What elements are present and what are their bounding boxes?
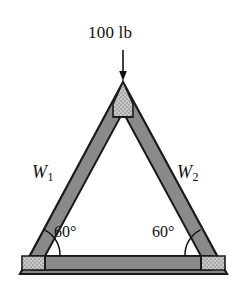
angle-label-right: 60° [152, 224, 174, 240]
base-tie-bar [31, 256, 212, 270]
bottom-right-gusset-plate [201, 256, 225, 270]
member-label-w1-base: W [32, 162, 47, 182]
member-label-w2-base: W [177, 162, 192, 182]
member-label-w2-subscript: 2 [192, 170, 199, 184]
apex-gusset-plate [113, 82, 133, 117]
member-label-w1-subscript: 1 [47, 170, 54, 184]
truss-diagram-svg [0, 0, 243, 286]
member-label-w1: W1 [32, 163, 54, 183]
truss-figure: 100 lb W1 W2 60° 60° [0, 0, 243, 286]
angle-label-left: 60° [54, 224, 76, 240]
load-arrow [119, 50, 127, 81]
bottom-left-gusset-plate [22, 256, 45, 270]
load-label: 100 lb [88, 24, 132, 41]
member-label-w2: W2 [177, 163, 199, 183]
